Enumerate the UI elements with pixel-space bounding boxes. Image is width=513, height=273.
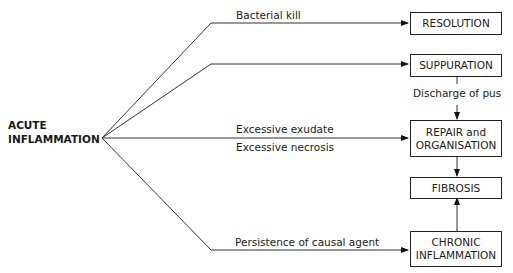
suppuration-box: SUPPURATION	[410, 54, 502, 77]
chronic-text-1: CHRONIC	[431, 236, 480, 249]
acute-inflammation-label: ACUTE INFLAMMATION	[8, 118, 100, 146]
suppuration-text: SUPPURATION	[419, 59, 493, 72]
excessive-exudate-label: Excessive exudate	[236, 123, 334, 135]
repair-text-1: REPAIR and	[426, 126, 486, 139]
excessive-necrosis-label: Excessive necrosis	[236, 141, 334, 153]
repair-box: REPAIR and ORGANISATION	[410, 120, 502, 157]
fibrosis-text: FIBROSIS	[432, 182, 480, 195]
source-line1: ACUTE	[8, 118, 100, 132]
discharge-of-pus-label: Discharge of pus	[413, 87, 501, 99]
persistence-label: Persistence of causal agent	[235, 236, 379, 248]
chronic-inflammation-box: CHRONIC INFLAMMATION	[410, 231, 502, 267]
resolution-box: RESOLUTION	[410, 12, 502, 35]
bacterial-kill-label: Bacterial kill	[236, 9, 301, 21]
fibrosis-box: FIBROSIS	[410, 177, 502, 199]
resolution-text: RESOLUTION	[422, 17, 490, 30]
repair-text-2: ORGANISATION	[416, 139, 497, 152]
source-line2: INFLAMMATION	[8, 132, 100, 146]
chronic-text-2: INFLAMMATION	[416, 249, 496, 262]
